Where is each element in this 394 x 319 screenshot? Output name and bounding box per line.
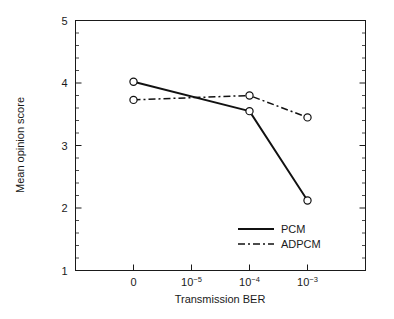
y-tick-label: 2	[61, 202, 67, 214]
x-tick-label: 0	[130, 276, 136, 288]
y-tick-label: 4	[61, 77, 67, 89]
data-point-marker	[304, 197, 311, 204]
data-point-marker	[246, 108, 253, 115]
x-tick-label: 10−5	[181, 275, 202, 288]
y-axis-title: Mean opinion score	[14, 97, 26, 193]
y-tick-label: 5	[61, 15, 67, 27]
legend-label-pcm: PCM	[281, 223, 305, 235]
data-point-marker	[304, 114, 311, 121]
chart-legend: PCMADPCM	[238, 223, 321, 250]
series-lines	[134, 82, 308, 201]
x-axis-tick-labels: 010−510−410−3	[130, 275, 317, 288]
plot-frame	[76, 21, 366, 271]
y-tick-label: 3	[61, 140, 67, 152]
data-point-marker	[130, 78, 137, 85]
y-axis-ticks	[76, 21, 366, 271]
chart-figure: 12345 010−510−410−3 Mean opinion score T…	[0, 0, 394, 319]
x-axis-title: Transmission BER	[175, 293, 266, 305]
line-chart: 12345 010−510−410−3 Mean opinion score T…	[0, 0, 394, 319]
y-axis-tick-labels: 12345	[61, 15, 67, 277]
x-tick-label: 10−4	[239, 275, 260, 288]
y-tick-label: 1	[61, 265, 67, 277]
data-point-marker	[246, 92, 253, 99]
series-markers	[130, 78, 311, 204]
legend-label-adpcm: ADPCM	[281, 238, 321, 250]
series-line-adpcm	[134, 96, 308, 118]
x-tick-label: 10−3	[297, 275, 318, 288]
data-point-marker	[130, 96, 137, 103]
x-axis-ticks	[134, 265, 308, 271]
